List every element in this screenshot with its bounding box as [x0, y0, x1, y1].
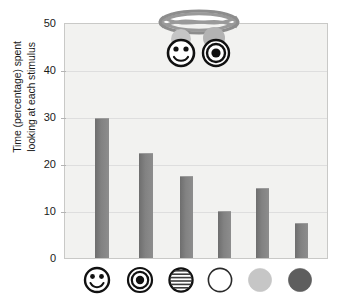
x-axis-icon-bullseye: [126, 266, 154, 294]
y-tick-mark-10: [61, 212, 66, 213]
bar-dark-gray-circle: [295, 223, 308, 258]
y-tick-label-50: 50: [30, 18, 56, 29]
mobile-apparatus-illustration: [150, 8, 250, 80]
x-axis-icon-light-gray-circle: [246, 266, 274, 294]
hoop-cross-bands: [160, 14, 238, 31]
x-axis-icon-striped-circle: [167, 266, 195, 294]
x-axis-icon-dark-gray-circle: [286, 266, 314, 294]
light-gray-circle-icon: [248, 268, 271, 291]
y-tick-mark-20: [61, 165, 66, 166]
inset-bullseye-icon: [203, 40, 229, 66]
y-tick-label-10: 10: [30, 206, 56, 217]
bar-bullseye: [139, 153, 153, 258]
bar-chart: Time (percentage) spent looking at each …: [0, 0, 345, 302]
y-tick-label-0: 0: [30, 253, 56, 264]
bar-light-gray-circle: [256, 188, 269, 258]
bar-smiley-face: [95, 118, 109, 258]
inset-smiley-face-icon: [168, 40, 194, 66]
smiley-face-icon: [85, 268, 109, 292]
bar-white-circle: [218, 211, 231, 258]
dark-gray-circle-icon: [288, 268, 311, 291]
y-tick-mark-30: [61, 118, 66, 119]
y-tick-label-30: 30: [30, 112, 56, 123]
y-tick-label-20: 20: [30, 159, 56, 170]
y-tick-label-40: 40: [30, 65, 56, 76]
x-axis-icon-white-circle: [206, 266, 234, 294]
x-axis-icon-smiley-face: [83, 266, 111, 294]
bar-striped-circle: [180, 176, 193, 258]
y-tick-mark-40: [61, 71, 66, 72]
white-circle-icon: [208, 268, 231, 291]
